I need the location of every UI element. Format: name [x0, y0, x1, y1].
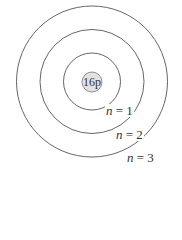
shell-label-n1: n = 1 [105, 104, 134, 117]
shell-label-n2: n = 2 [115, 128, 144, 141]
shell-label-value: = 2 [123, 127, 143, 142]
shell-label-n3: n = 3 [126, 151, 155, 164]
nucleus-label: 16p [80, 76, 104, 88]
shell-label-value: = 1 [113, 103, 133, 118]
shell-label-value: = 3 [134, 150, 154, 165]
